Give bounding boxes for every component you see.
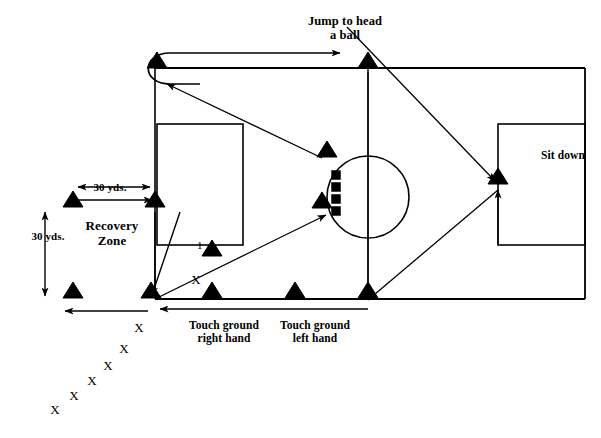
cone-top-left: [147, 52, 167, 68]
cone-recovery-lower-left: [63, 282, 83, 298]
label-touch-ground-left-hand: Touch ground left hand: [280, 319, 350, 345]
x-marker-2: X: [134, 321, 143, 334]
x-marker-5: X: [87, 374, 96, 387]
cone-bottom-third: [285, 282, 305, 298]
right-penalty-box: [498, 124, 585, 245]
arrow-to-top-left-cone: [167, 84, 322, 158]
field-outline: [155, 68, 585, 299]
x-marker-7: X: [50, 403, 59, 416]
label-recovery-zone: Recovery Zone: [86, 219, 139, 248]
training-diagram: Jump to head a ball Sit down Recovery Zo…: [0, 0, 601, 438]
label-jump-to-head: Jump to head a ball: [308, 14, 382, 42]
hurdle-1: [331, 170, 341, 180]
hurdle-2: [331, 182, 341, 192]
hurdle-3: [331, 194, 341, 204]
cone-recovery-upper-left: [63, 191, 83, 207]
x-marker-1: X: [191, 273, 200, 286]
hurdle-4: [331, 206, 341, 216]
label-station-number: 1: [197, 239, 203, 251]
x-marker-3: X: [119, 342, 128, 355]
arrow-to-hurdles: [155, 215, 326, 299]
cone-circle-upper: [317, 141, 337, 157]
label-distance-horizontal: 30 yds.: [93, 181, 126, 193]
x-marker-4: X: [103, 359, 112, 372]
cone-circle-lower: [312, 192, 332, 208]
left-penalty-box: [157, 124, 243, 245]
arrow-sitdown-to-bottom-center: [368, 190, 498, 300]
label-distance-vertical: 30 yds.: [31, 230, 64, 242]
label-touch-ground-right-hand: Touch ground right hand: [189, 319, 259, 345]
cone-bottom-second: [202, 282, 222, 298]
hurdle-group: [331, 170, 341, 216]
cone-recovery-upper-right: [145, 191, 165, 207]
cone-bottom-left: [141, 282, 161, 298]
path-arrows: [65, 27, 498, 311]
arrow-to-sit-down: [347, 27, 495, 181]
cone-top-center: [358, 52, 378, 68]
arrow-down-to-bottom-left: [152, 212, 180, 295]
label-sit-down: Sit down: [541, 149, 585, 162]
cone-group: [63, 52, 508, 298]
cone-station-one: [202, 240, 222, 256]
x-marker-6: X: [69, 389, 78, 402]
cone-bottom-center: [358, 282, 378, 298]
